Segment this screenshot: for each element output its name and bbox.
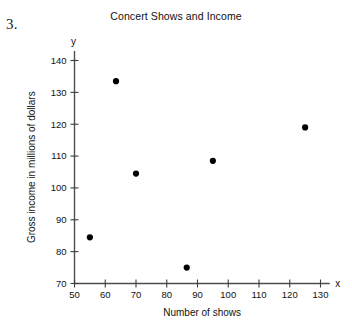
figure-container: 3. Concert Shows and Income 708090100110… [0,0,352,324]
y-axis-symbol: y [71,36,76,47]
x-axis-label: Number of shows [163,307,241,318]
data-point [87,234,93,240]
x-axis-tick-label: 50 [69,289,80,300]
x-axis-tick-label: 120 [282,289,298,300]
data-point [133,170,139,176]
x-axis-tick-label: 60 [100,289,111,300]
y-axis-tick-label: 70 [56,278,67,289]
y-axis-tick-label: 140 [51,55,67,66]
x-axis-tick-label: 100 [220,289,236,300]
y-axis-tick-label: 110 [51,150,66,161]
data-point [302,124,308,130]
y-axis-tick-label: 80 [56,246,67,257]
data-point [113,78,119,84]
x-axis-tick-label: 80 [161,289,172,300]
x-axis-tick-label: 70 [131,289,142,300]
x-axis-tick-label: 110 [251,289,266,300]
y-axis-tick-label: 100 [51,182,67,193]
y-axis-tick-label: 90 [56,214,67,225]
data-point [184,264,190,270]
y-axis-tick-label: 130 [51,87,67,98]
scatter-plot: 7080901001101201301405060708090100110120… [0,0,352,324]
y-axis-tick-label: 120 [51,119,67,130]
x-axis-tick-label: 90 [192,289,203,300]
x-axis-symbol: x [335,278,340,289]
x-axis-tick-label: 130 [313,289,329,300]
data-point [210,158,216,164]
y-axis-label: Gross income in millions of dollars [26,91,37,243]
